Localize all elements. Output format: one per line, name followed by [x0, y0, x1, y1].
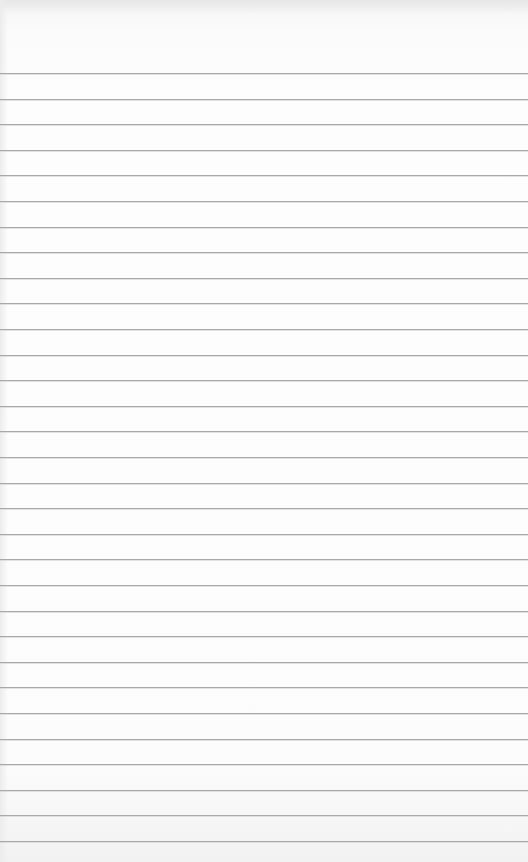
ruled-line: [0, 278, 528, 279]
top-shadow: [0, 0, 528, 14]
ruled-line: [0, 559, 528, 560]
ruled-line: [0, 124, 528, 125]
ruled-line: [0, 739, 528, 740]
ruled-line: [0, 355, 528, 356]
ruled-line: [0, 713, 528, 714]
ruled-line: [0, 431, 528, 432]
ruled-line: [0, 841, 528, 842]
ruled-line: [0, 227, 528, 228]
ruled-line: [0, 406, 528, 407]
ruled-line: [0, 636, 528, 637]
ruled-line: [0, 175, 528, 176]
ruled-line: [0, 534, 528, 535]
ruled-line: [0, 508, 528, 509]
ruled-line: [0, 483, 528, 484]
ruled-line: [0, 687, 528, 688]
ruled-line: [0, 252, 528, 253]
lined-paper: [0, 0, 528, 862]
ruled-line: [0, 150, 528, 151]
ruled-line: [0, 815, 528, 816]
ruled-line: [0, 662, 528, 663]
ruled-line: [0, 585, 528, 586]
ruled-line: [0, 380, 528, 381]
ruled-line: [0, 303, 528, 304]
ruled-line: [0, 99, 528, 100]
ruled-line: [0, 457, 528, 458]
ruled-line: [0, 764, 528, 765]
ruled-line: [0, 73, 528, 74]
ruled-line: [0, 611, 528, 612]
ruled-line: [0, 329, 528, 330]
ruled-line: [0, 790, 528, 791]
ruled-line: [0, 201, 528, 202]
